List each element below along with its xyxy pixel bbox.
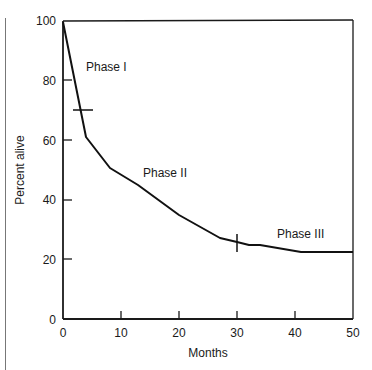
- x-ticks: [121, 311, 295, 319]
- x-axis-title: Months: [188, 346, 227, 360]
- y-tick-label: 100: [36, 14, 56, 28]
- survival-curve: [63, 22, 353, 252]
- x-tick-label: 50: [346, 326, 360, 340]
- y-tick-label: 60: [43, 134, 57, 148]
- y-tick-label: 0: [49, 313, 56, 327]
- x-tick-label: 20: [172, 326, 186, 340]
- x-tick-label: 30: [230, 326, 244, 340]
- y-ticks: [63, 80, 72, 259]
- y-tick-label: 80: [43, 74, 57, 88]
- y-tick-label: 40: [43, 193, 57, 207]
- x-tick-label: 40: [288, 326, 302, 340]
- y-axis-title: Percent alive: [13, 135, 27, 205]
- top-border: [63, 20, 353, 21]
- x-tick-labels: 0 10 20 30 40 50: [60, 326, 360, 340]
- phase-1-label: Phase I: [86, 60, 127, 74]
- x-tick-label: 10: [114, 326, 128, 340]
- y-tick-labels: 100 80 60 40 20 0: [36, 14, 56, 327]
- survival-chart: 100 80 60 40 20 0 0 10 20 30 40 50 Month…: [0, 0, 372, 370]
- x-tick-label: 0: [60, 326, 67, 340]
- y-tick-label: 20: [43, 253, 57, 267]
- phase-2-label: Phase II: [143, 166, 187, 180]
- phase-3-label: Phase III: [277, 227, 324, 241]
